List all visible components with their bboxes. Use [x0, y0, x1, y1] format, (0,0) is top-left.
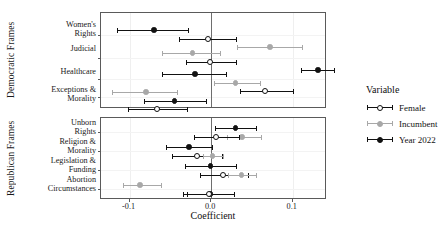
error-bar-cap	[260, 81, 261, 86]
error-bar-cap	[185, 164, 186, 169]
legend-key-female-icon	[366, 102, 394, 114]
error-bar-cap	[301, 68, 302, 73]
error-bar-cap	[293, 89, 294, 94]
legend-item-year-2022[interactable]: Year 2022	[366, 132, 446, 148]
row-label-legislation-funding: Legislation & Funding	[26, 157, 96, 175]
x-axis-title: Coefficient	[100, 210, 326, 221]
y-axis-tick	[98, 151, 101, 152]
error-bar-cap	[187, 107, 188, 112]
error-bar-cap	[112, 90, 113, 95]
gridline-horizontal	[101, 170, 325, 171]
data-point-incumbent[interactable]	[239, 172, 244, 177]
error-bar-cap	[177, 90, 178, 95]
y-axis-tick	[98, 35, 101, 36]
error-bar-cap	[220, 51, 221, 56]
data-point-incumbent[interactable]	[143, 89, 148, 94]
error-bar-cap	[236, 164, 237, 169]
data-point-female[interactable]	[206, 191, 212, 197]
error-bar-cap	[203, 154, 204, 159]
row-labels-democratic: Women's Rights Judicial Healthcare Excep…	[26, 12, 96, 108]
data-point-year-2022[interactable]	[233, 125, 238, 130]
data-point-female[interactable]	[194, 153, 200, 159]
error-bar-cap	[236, 37, 237, 42]
row-labels-republican: Unborn Rights Religion & Morality Legisl…	[26, 117, 96, 199]
data-point-female[interactable]	[207, 59, 213, 65]
legend-label-incumbent: Incumbent	[399, 119, 438, 129]
gridline-vertical	[130, 13, 131, 107]
gridline-vertical	[130, 118, 131, 198]
data-point-year-2022[interactable]	[315, 67, 320, 72]
row-label-healthcare: Healthcare	[26, 68, 96, 77]
legend-key-incumbent-icon	[366, 118, 394, 130]
gridline-horizontal	[101, 189, 325, 190]
data-point-incumbent[interactable]	[267, 44, 272, 49]
gridline-horizontal	[101, 151, 325, 152]
error-bar-cap	[162, 51, 163, 56]
gridline-vertical	[293, 118, 294, 198]
legend-item-female[interactable]: Female	[366, 100, 446, 116]
error-bar-cap	[256, 126, 257, 131]
row-label-judicial: Judicial	[26, 45, 96, 54]
y-axis-tick	[98, 132, 101, 133]
row-label-unborn-rights: Unborn Rights	[26, 119, 96, 137]
error-bar-cap	[172, 154, 173, 159]
facet-strip-label-democratic: Democratic Frames	[6, 12, 22, 108]
data-point-incumbent[interactable]	[137, 182, 142, 187]
coefficient-plot-figure: Democratic Frames Republican Frames Wome…	[0, 0, 447, 235]
error-bar-cap	[237, 45, 238, 50]
error-bar-cap	[144, 99, 145, 104]
error-bar-cap	[162, 72, 163, 77]
data-point-female[interactable]	[220, 172, 226, 178]
data-point-year-2022[interactable]	[172, 98, 177, 103]
error-bar-cap	[200, 173, 201, 178]
data-point-incumbent[interactable]	[239, 134, 244, 139]
data-point-year-2022[interactable]	[151, 27, 156, 32]
gridline-horizontal	[101, 97, 325, 98]
error-bar-cap	[234, 192, 235, 197]
row-label-womens-rights: Women's Rights	[26, 21, 96, 39]
gridline-horizontal	[101, 58, 325, 59]
error-bar-cap	[215, 126, 216, 131]
error-bar-cap	[212, 145, 213, 150]
error-bar-cap	[226, 72, 227, 77]
error-bar-cap	[214, 81, 215, 86]
error-bar-cap	[123, 183, 124, 188]
error-bar-cap	[188, 28, 189, 33]
data-point-female[interactable]	[205, 36, 211, 42]
legend-key-year-2022-icon	[366, 134, 394, 146]
gridline-horizontal	[101, 35, 325, 36]
legend-title: Variable	[366, 84, 446, 95]
y-axis-tick	[98, 189, 101, 190]
facet-panel-democratic	[100, 12, 326, 108]
data-point-year-2022[interactable]	[186, 144, 191, 149]
data-point-female[interactable]	[262, 88, 268, 94]
gridline-horizontal	[101, 132, 325, 133]
y-axis-tick	[98, 58, 101, 59]
error-bar-cap	[256, 173, 257, 178]
error-bar-cap	[239, 135, 240, 140]
legend-item-incumbent[interactable]: Incumbent	[366, 116, 446, 132]
legend: Variable Female Incumbent	[366, 84, 446, 148]
facet-strip-label-republican: Republican Frames	[6, 117, 22, 199]
data-point-female[interactable]	[154, 106, 160, 112]
row-label-religion-morality: Religion & Morality	[26, 138, 96, 156]
row-label-abortion-circumstances: Abortion Circumstances	[26, 176, 96, 194]
data-point-year-2022[interactable]	[208, 163, 213, 168]
data-point-female[interactable]	[213, 134, 219, 140]
error-bar-cap	[334, 68, 335, 73]
error-bar-cap	[186, 60, 187, 65]
error-bar-cap	[183, 192, 184, 197]
error-bar-cap	[166, 145, 167, 150]
data-point-year-2022[interactable]	[192, 71, 197, 76]
error-bar-cap	[236, 60, 237, 65]
error-bar-cap	[128, 107, 129, 112]
y-axis-tick	[98, 170, 101, 171]
row-label-exceptions-morality: Exceptions & Morality	[26, 86, 96, 104]
error-bar-cap	[223, 154, 224, 159]
data-point-incumbent[interactable]	[233, 80, 238, 85]
facet-panel-republican	[100, 117, 326, 199]
error-bar-cap	[228, 173, 229, 178]
legend-label-year-2022: Year 2022	[399, 135, 436, 145]
data-point-incumbent[interactable]	[190, 50, 195, 55]
data-point-incumbent[interactable]	[210, 153, 215, 158]
